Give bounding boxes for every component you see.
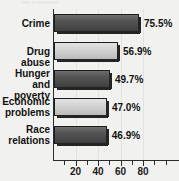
bar-0 <box>54 14 139 32</box>
x-tick-50 <box>109 161 110 165</box>
category-label-3: Economicproblems <box>0 96 50 118</box>
x-tick-70 <box>132 161 133 165</box>
value-label-1: 56.9% <box>123 46 151 57</box>
x-axis-line <box>53 160 179 161</box>
value-label-4: 46.9% <box>112 130 140 141</box>
x-tick-10 <box>64 161 65 165</box>
x-tick-90 <box>154 161 155 165</box>
x-tick-30 <box>87 161 88 165</box>
cropped-title-remnant: ▪▪▪▪ ▪▪ ▪▪▪▪▪▪▪▪▪▪ <box>22 0 122 5</box>
bar-4 <box>54 126 107 144</box>
category-label-line: Crime <box>0 18 50 29</box>
x-tick-100 <box>166 161 167 165</box>
category-label-line: Economic <box>0 96 50 107</box>
value-label-2: 49.7% <box>115 74 143 85</box>
bar-3 <box>54 98 107 116</box>
value-label-3: 47.0% <box>112 102 140 113</box>
x-tick-label-60: 60 <box>111 166 131 177</box>
category-label-1: Drug abuse <box>0 46 50 68</box>
bar-2 <box>54 70 110 88</box>
x-tick-label-80: 80 <box>133 166 153 177</box>
category-label-line: Hunger and <box>0 68 50 90</box>
category-label-line: Race <box>0 124 50 135</box>
bar-1 <box>54 42 118 60</box>
horizontal-bar-chart: ▪▪▪▪ ▪▪ ▪▪▪▪▪▪▪▪▪▪ 20406080 Crime75.5%Dr… <box>0 0 179 181</box>
category-label-line: Drug abuse <box>0 46 50 68</box>
category-label-4: Racerelations <box>0 124 50 146</box>
x-tick-label-20: 20 <box>66 166 86 177</box>
x-tick-label-40: 40 <box>88 166 108 177</box>
category-label-line: relations <box>0 135 50 146</box>
value-label-0: 75.5% <box>144 18 172 29</box>
category-label-0: Crime <box>0 18 50 29</box>
category-label-line: problems <box>0 107 50 118</box>
